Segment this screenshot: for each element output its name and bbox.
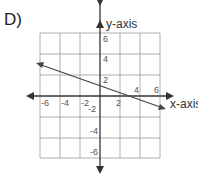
y-axis-up-arrow-icon [96,20,104,28]
svg-text:-6: -6 [41,98,49,108]
y-axis-label: y-axis [106,17,137,31]
svg-text:2: 2 [116,98,121,108]
svg-text:6: 6 [103,34,108,44]
line-arrow-right-icon [158,104,166,110]
coordinate-plane: -6 -4 -2 2 4 6 6 4 2 -2 -4 -6 y-axis x-a… [0,0,198,176]
svg-text:-4: -4 [90,126,98,136]
x-axis-label: x-axis [170,97,198,111]
svg-text:6: 6 [154,85,159,95]
svg-text:-6: -6 [90,147,98,157]
svg-text:-2: -2 [88,104,96,114]
svg-text:2: 2 [103,75,108,85]
svg-text:4: 4 [134,85,139,95]
svg-text:-4: -4 [61,98,69,108]
svg-text:4: 4 [103,54,108,64]
plotted-line [40,65,163,109]
y-axis-top-arrow-icon [97,0,103,6]
x-axis-left-arrow-icon [26,92,34,100]
y-axis-down-arrow-icon [96,166,104,174]
